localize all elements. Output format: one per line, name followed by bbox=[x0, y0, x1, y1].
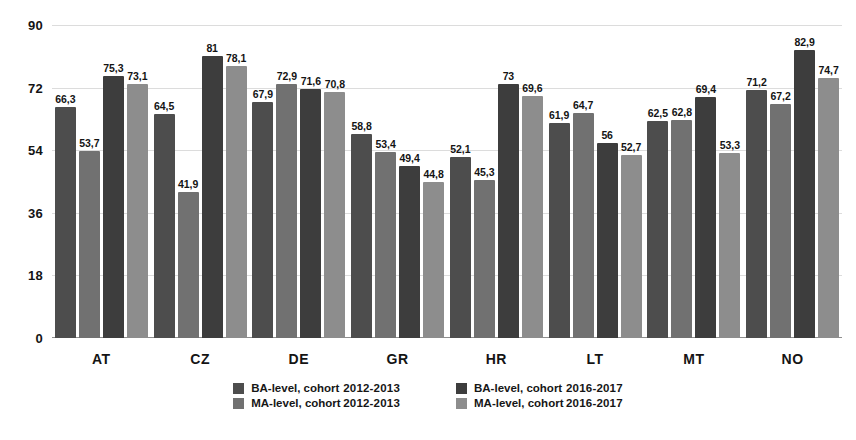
bar[interactable] bbox=[375, 152, 396, 338]
bar-slot: 61,9 bbox=[549, 25, 570, 338]
bar-slot: 53,4 bbox=[375, 25, 396, 338]
bar-slot: 64,7 bbox=[573, 25, 594, 338]
bar[interactable] bbox=[202, 56, 223, 338]
bar-slot: 44,8 bbox=[423, 25, 444, 338]
plot-area: 01836547290 66,353,775,373,1AT64,541,981… bbox=[52, 25, 842, 338]
legend-item-period: 2012-2013 bbox=[343, 382, 400, 394]
bar-slot: 67,2 bbox=[770, 25, 791, 338]
bar[interactable] bbox=[324, 92, 345, 338]
bar[interactable] bbox=[55, 107, 76, 338]
legend-item[interactable]: MA-level, cohort2016-2017 bbox=[456, 397, 623, 409]
bar-group-mt: 62,562,869,453,3MT bbox=[645, 25, 744, 338]
bar-slot: 58,8 bbox=[351, 25, 372, 338]
bar-slot: 52,7 bbox=[621, 25, 642, 338]
legend-swatch-icon bbox=[233, 398, 244, 409]
legend-item[interactable]: BA-level, cohort2012-2013 bbox=[233, 382, 400, 394]
bar-slot: 71,6 bbox=[300, 25, 321, 338]
bar[interactable] bbox=[276, 84, 297, 338]
bar-slot: 62,5 bbox=[647, 25, 668, 338]
bar-slot: 64,5 bbox=[154, 25, 175, 338]
bar[interactable] bbox=[671, 120, 692, 338]
legend-item[interactable]: MA-level, cohort2012-2013 bbox=[233, 397, 400, 409]
bar[interactable] bbox=[178, 192, 199, 338]
bar-slot: 49,4 bbox=[399, 25, 420, 338]
bar-value-label: 78,1 bbox=[226, 52, 246, 64]
bar-slot: 70,8 bbox=[324, 25, 345, 338]
x-axis-tick-label: GR bbox=[348, 351, 447, 367]
bar-value-label: 67,2 bbox=[771, 90, 791, 102]
bar-value-label: 62,5 bbox=[648, 107, 668, 119]
bar-slot: 67,9 bbox=[252, 25, 273, 338]
bar-value-label: 69,6 bbox=[522, 82, 542, 94]
legend-item[interactable]: BA-level, cohort2016-2017 bbox=[456, 382, 623, 394]
bar-slot: 53,3 bbox=[719, 25, 740, 338]
x-axis-tick-label: NO bbox=[743, 351, 842, 367]
bar[interactable] bbox=[695, 97, 716, 338]
bar[interactable] bbox=[226, 66, 247, 338]
bar[interactable] bbox=[719, 153, 740, 338]
bar[interactable] bbox=[621, 155, 642, 338]
bar-value-label: 56 bbox=[601, 129, 612, 141]
bar[interactable] bbox=[770, 104, 791, 338]
y-axis-tick-label: 90 bbox=[28, 18, 43, 33]
bar[interactable] bbox=[522, 96, 543, 338]
bar-value-label: 58,8 bbox=[352, 120, 372, 132]
bar-slot: 53,7 bbox=[79, 25, 100, 338]
y-axis-tick-label: 36 bbox=[28, 205, 43, 220]
bar[interactable] bbox=[573, 113, 594, 338]
bar-value-label: 69,4 bbox=[696, 83, 716, 95]
bar[interactable] bbox=[79, 151, 100, 338]
bar[interactable] bbox=[597, 143, 618, 338]
bar[interactable] bbox=[450, 157, 471, 338]
bar[interactable] bbox=[154, 114, 175, 338]
bar-slot: 62,8 bbox=[671, 25, 692, 338]
x-axis-tick-label: AT bbox=[52, 351, 151, 367]
y-axis-tick-label: 72 bbox=[28, 80, 43, 95]
bar[interactable] bbox=[474, 180, 495, 338]
bar-slot: 73,1 bbox=[127, 25, 148, 338]
legend-swatch-icon bbox=[456, 398, 467, 409]
bar[interactable] bbox=[746, 90, 767, 338]
bar-groups: 66,353,775,373,1AT64,541,98178,1CZ67,972… bbox=[52, 25, 842, 338]
bar-value-label: 49,4 bbox=[400, 152, 420, 164]
bar-group-hr: 52,145,37369,6HR bbox=[447, 25, 546, 338]
bar-value-label: 71,2 bbox=[747, 76, 767, 88]
bar[interactable] bbox=[103, 76, 124, 338]
legend-item-period: 2012-2013 bbox=[343, 397, 400, 409]
bar-value-label: 74,7 bbox=[819, 64, 839, 76]
bar-value-label: 81 bbox=[206, 42, 217, 54]
bar[interactable] bbox=[498, 84, 519, 338]
bar-value-label: 64,5 bbox=[154, 100, 174, 112]
bar-slot: 81 bbox=[202, 25, 223, 338]
bar[interactable] bbox=[399, 166, 420, 338]
bar-value-label: 82,9 bbox=[795, 36, 815, 48]
bar-group-de: 67,972,971,670,8DE bbox=[250, 25, 349, 338]
bar[interactable] bbox=[818, 78, 839, 338]
bar-value-label: 64,7 bbox=[573, 99, 593, 111]
bar-slot: 56 bbox=[597, 25, 618, 338]
x-axis-tick-label: HR bbox=[447, 351, 546, 367]
bar[interactable] bbox=[647, 121, 668, 338]
bar[interactable] bbox=[351, 134, 372, 338]
bar-value-label: 75,3 bbox=[103, 62, 123, 74]
legend-swatch-icon bbox=[233, 383, 244, 394]
bar-group-lt: 61,964,75652,7LT bbox=[546, 25, 645, 338]
bar[interactable] bbox=[127, 84, 148, 338]
bar-value-label: 44,8 bbox=[424, 168, 444, 180]
bar[interactable] bbox=[252, 102, 273, 338]
bar[interactable] bbox=[549, 123, 570, 338]
bar[interactable] bbox=[423, 182, 444, 338]
grouped-bar-chart: 01836547290 66,353,775,373,1AT64,541,981… bbox=[0, 0, 856, 440]
bar-value-label: 71,6 bbox=[301, 75, 321, 87]
bar-slot: 78,1 bbox=[226, 25, 247, 338]
bar[interactable] bbox=[794, 50, 815, 338]
bar-slot: 45,3 bbox=[474, 25, 495, 338]
y-axis-tick-label: 0 bbox=[35, 331, 43, 346]
bar[interactable] bbox=[300, 89, 321, 338]
bar-slot: 72,9 bbox=[276, 25, 297, 338]
bar-slot: 52,1 bbox=[450, 25, 471, 338]
bar-value-label: 53,7 bbox=[79, 137, 99, 149]
legend-item-period: 2016-2017 bbox=[566, 397, 623, 409]
legend-item-label: BA-level, cohort bbox=[474, 382, 566, 394]
x-axis-tick-label: CZ bbox=[151, 351, 250, 367]
